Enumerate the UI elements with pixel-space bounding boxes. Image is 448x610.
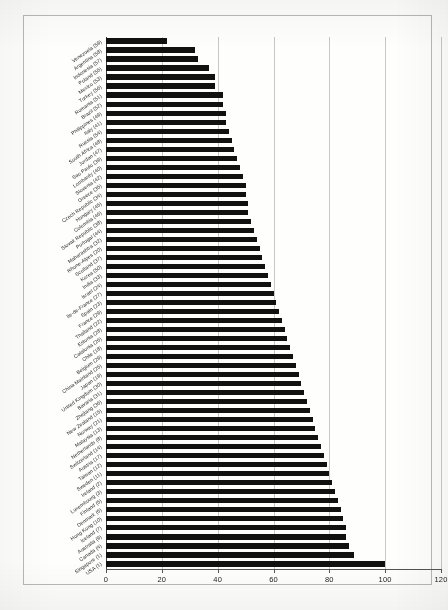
bar-row	[106, 190, 441, 199]
bar-row	[106, 362, 441, 371]
bar-row	[106, 434, 441, 443]
bar	[106, 507, 341, 512]
bar-row	[106, 163, 441, 172]
x-tick-120	[441, 569, 442, 573]
bar	[106, 318, 282, 323]
bar-row	[106, 326, 441, 335]
bar	[106, 83, 215, 88]
x-tick-label-60: 60	[269, 575, 278, 584]
x-tick-label-100: 100	[379, 575, 392, 584]
bar-row	[106, 226, 441, 235]
bar	[106, 327, 285, 332]
bar	[106, 300, 276, 305]
bar-row	[106, 317, 441, 326]
bar-row	[106, 100, 441, 109]
bar	[106, 480, 332, 485]
bar-row	[106, 470, 441, 479]
bar-row	[106, 154, 441, 163]
bar	[106, 291, 274, 296]
x-tick-label-40: 40	[213, 575, 222, 584]
bar	[106, 354, 293, 359]
bar-row	[106, 398, 441, 407]
bar	[106, 147, 234, 152]
bar	[106, 156, 237, 161]
bar	[106, 38, 167, 43]
bar-series	[106, 37, 441, 569]
bar	[106, 92, 223, 97]
bar-row	[106, 235, 441, 244]
plot-area	[106, 37, 441, 569]
gridline-120	[441, 37, 442, 569]
bar-row	[106, 289, 441, 298]
bar	[106, 552, 354, 557]
bar	[106, 543, 349, 548]
bar-row	[106, 542, 441, 551]
bar	[106, 237, 257, 242]
bar	[106, 399, 307, 404]
x-tick-60	[274, 569, 275, 573]
bar-row	[106, 515, 441, 524]
bar	[106, 219, 251, 224]
bar-row	[106, 335, 441, 344]
x-tick-80	[329, 569, 330, 573]
chart-page: 020406080100120 Venezuela (59)Argentina …	[0, 0, 448, 610]
bar	[106, 417, 313, 422]
bar-row	[106, 488, 441, 497]
bar	[106, 74, 215, 79]
bar	[106, 309, 279, 314]
bar-row	[106, 298, 441, 307]
bar	[106, 462, 327, 467]
bar	[106, 102, 223, 107]
bar	[106, 489, 335, 494]
bar	[106, 264, 265, 269]
bar-row	[106, 253, 441, 262]
bar-row	[106, 416, 441, 425]
bar	[106, 111, 226, 116]
bar	[106, 129, 229, 134]
bar	[106, 273, 268, 278]
bar	[106, 120, 226, 125]
bar	[106, 435, 318, 440]
bar-row	[106, 91, 441, 100]
bar-row	[106, 560, 441, 569]
bar	[106, 345, 290, 350]
x-tick-20	[162, 569, 163, 573]
x-tick-40	[218, 569, 219, 573]
bar	[106, 408, 310, 413]
bar	[106, 516, 343, 521]
bar-row	[106, 172, 441, 181]
bar-row	[106, 452, 441, 461]
bar-row	[106, 461, 441, 470]
bar	[106, 210, 248, 215]
bar-row	[106, 109, 441, 118]
bar	[106, 534, 346, 539]
bar-row	[106, 136, 441, 145]
bar	[106, 336, 287, 341]
bar	[106, 444, 321, 449]
bar-row	[106, 199, 441, 208]
bar-row	[106, 308, 441, 317]
x-tick-0	[106, 569, 107, 573]
bar-row	[106, 181, 441, 190]
bar	[106, 47, 195, 52]
bar-row	[106, 389, 441, 398]
bar	[106, 426, 315, 431]
bar	[106, 498, 338, 503]
bar-row	[106, 208, 441, 217]
bar-row	[106, 145, 441, 154]
bar-row	[106, 380, 441, 389]
bar	[106, 390, 304, 395]
bar	[106, 201, 248, 206]
bar-row	[106, 443, 441, 452]
bar-row	[106, 407, 441, 416]
bar-row	[106, 118, 441, 127]
bar-row	[106, 551, 441, 560]
bar-row	[106, 217, 441, 226]
x-tick-label-20: 20	[157, 575, 166, 584]
bar-row	[106, 127, 441, 136]
bar-row	[106, 479, 441, 488]
bar	[106, 282, 271, 287]
bar-row	[106, 344, 441, 353]
bar	[106, 183, 246, 188]
bar	[106, 255, 262, 260]
